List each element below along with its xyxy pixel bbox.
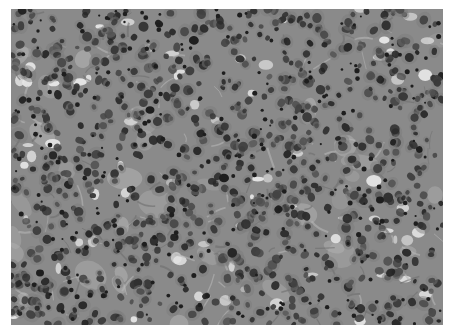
micrograph-image [11,9,443,325]
tissue-texture [11,9,443,325]
